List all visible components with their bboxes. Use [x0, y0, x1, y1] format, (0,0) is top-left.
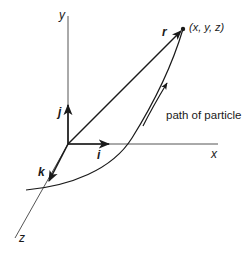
path-label: path of particle [166, 110, 241, 122]
diagram-canvas [0, 0, 250, 254]
r-vector-label: r [162, 26, 167, 38]
point-marker [181, 27, 185, 31]
path-direction-arrow [143, 83, 167, 126]
coordinate-diagram: y x z j i k r (x, y, z) path of particle [0, 0, 250, 254]
z-axis-label: z [19, 232, 25, 244]
i-vector-label: i [97, 149, 100, 161]
y-axis-label: y [59, 9, 65, 21]
x-axis-label: x [211, 148, 217, 160]
j-vector-label: j [58, 106, 61, 118]
point-coordinates-label: (x, y, z) [189, 22, 224, 33]
k-unit-vector [49, 144, 68, 181]
k-vector-label: k [38, 166, 45, 178]
